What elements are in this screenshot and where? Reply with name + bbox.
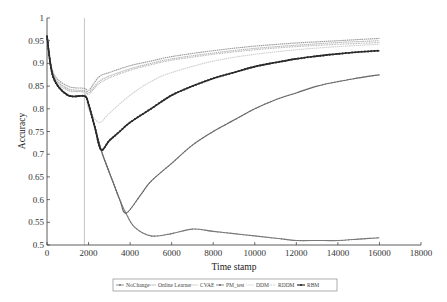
data-marker: [189, 86, 191, 88]
data-marker: [142, 232, 143, 233]
data-marker: [239, 117, 240, 118]
data-marker: [291, 59, 293, 61]
y-tick-label: 0.7: [33, 149, 45, 159]
data-marker: [91, 117, 93, 119]
data-marker: [216, 76, 218, 78]
data-marker: [211, 132, 212, 133]
data-marker: [329, 240, 330, 241]
data-marker: [312, 87, 313, 88]
data-marker: [134, 118, 136, 120]
data-marker: [189, 229, 190, 230]
data-marker: [228, 73, 230, 75]
data-marker: [111, 178, 112, 179]
data-marker: [219, 75, 221, 77]
data-marker: [98, 145, 100, 147]
data-marker: [119, 130, 121, 132]
x-tick-label: 14000: [327, 248, 350, 258]
x-tick-label: 10000: [244, 248, 267, 258]
data-marker: [161, 235, 162, 236]
data-marker: [116, 190, 117, 191]
data-marker: [158, 174, 159, 175]
legend-label: NoChange: [126, 282, 150, 288]
data-marker: [195, 229, 196, 230]
data-marker: [47, 48, 49, 50]
data-marker: [92, 120, 94, 122]
data-marker: [87, 101, 89, 103]
data-marker: [168, 166, 169, 167]
x-ticks: 0200040006000800010000120001400016000180…: [45, 242, 433, 258]
data-marker: [354, 51, 356, 53]
data-marker: [367, 238, 368, 239]
data-marker: [119, 199, 120, 200]
data-marker: [306, 89, 307, 90]
legend-label: CVAE: [200, 282, 215, 288]
data-marker: [332, 53, 334, 55]
data-marker: [342, 52, 344, 54]
data-marker: [297, 58, 299, 60]
data-marker: [250, 111, 251, 112]
data-marker: [163, 170, 164, 171]
data-marker: [326, 240, 327, 241]
data-marker: [198, 229, 199, 230]
data-marker: [145, 234, 146, 235]
data-marker: [124, 210, 125, 211]
data-marker: [213, 77, 215, 79]
data-marker: [91, 114, 93, 116]
data-marker: [255, 108, 256, 109]
data-marker: [118, 196, 119, 197]
data-marker: [117, 193, 118, 194]
legend-label: Online Learner: [158, 282, 192, 288]
data-marker: [357, 239, 358, 240]
data-marker: [137, 198, 138, 199]
data-marker: [132, 206, 133, 207]
data-marker: [211, 231, 212, 232]
data-marker: [97, 138, 99, 140]
data-marker: [285, 60, 287, 62]
data-marker: [233, 233, 234, 234]
data-marker: [350, 79, 351, 80]
data-marker: [208, 230, 209, 231]
data-marker: [255, 235, 256, 236]
data-marker: [332, 240, 333, 241]
data-marker: [139, 231, 140, 232]
data-marker: [121, 128, 123, 130]
data-marker: [247, 112, 248, 113]
data-marker: [326, 54, 328, 56]
data-marker: [338, 240, 339, 241]
data-marker: [201, 81, 203, 83]
legend-label: PM_test: [226, 282, 245, 288]
data-marker: [89, 107, 91, 109]
data-marker: [361, 51, 363, 53]
data-marker: [316, 240, 317, 241]
data-marker: [95, 129, 97, 131]
data-marker: [112, 181, 113, 182]
data-marker: [165, 168, 166, 169]
data-marker: [120, 202, 121, 203]
data-marker: [174, 92, 176, 94]
data-marker: [247, 67, 249, 69]
data-marker: [278, 61, 280, 63]
data-marker: [150, 108, 152, 110]
y-tick-label: 0.85: [28, 81, 44, 91]
x-tick-label: 8000: [204, 248, 223, 258]
data-marker: [198, 83, 200, 85]
data-marker: [227, 123, 228, 124]
data-marker: [88, 104, 90, 106]
data-marker: [102, 149, 104, 151]
data-marker: [105, 144, 107, 146]
data-marker: [361, 238, 362, 239]
data-marker: [104, 160, 105, 161]
data-marker: [278, 238, 279, 239]
data-marker: [189, 147, 190, 148]
data-marker: [105, 163, 106, 164]
data-marker: [108, 169, 109, 170]
y-tick-label: 0.8: [33, 104, 45, 114]
data-marker: [127, 216, 128, 217]
data-marker: [124, 126, 126, 128]
data-marker: [378, 74, 379, 75]
data-marker: [131, 120, 133, 122]
data-marker: [244, 114, 245, 115]
data-marker: [177, 91, 179, 93]
data-marker: [50, 64, 52, 66]
legend-marker: [119, 284, 121, 286]
